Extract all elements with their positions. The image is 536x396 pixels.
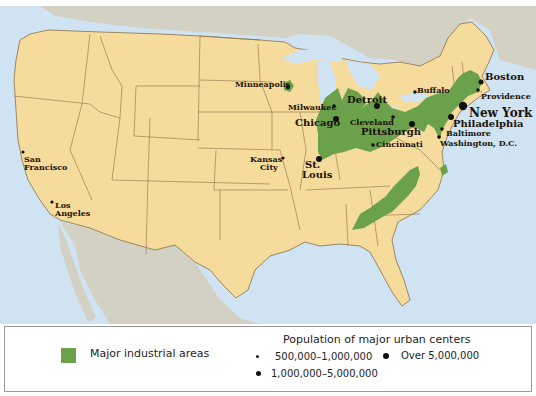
small-city-dot-icon [256, 355, 259, 358]
population-legend-title: Population of major urban centers [283, 333, 470, 346]
svg-text:Providence: Providence [481, 91, 531, 101]
legend-size-medium-label: 1,000,000–5,000,000 [271, 368, 378, 379]
svg-text:Detroit: Detroit [347, 94, 387, 105]
industrial-area-swatch [61, 348, 76, 363]
legend-size-large: Over 5,000,000 [383, 350, 479, 361]
us-industrial-map: Minneapolis Milwaukee Chicago Detroit Cl… [0, 6, 536, 324]
svg-text:Boston: Boston [485, 71, 525, 82]
svg-text:Pittsburgh: Pittsburgh [361, 126, 422, 137]
large-city-dot-icon [383, 353, 389, 359]
legend-size-medium: 1,000,000–5,000,000 [256, 368, 378, 379]
city-providence: Providence [476, 88, 531, 101]
city-buffalo: Buffalo [413, 85, 450, 95]
svg-text:Baltimore: Baltimore [446, 128, 491, 138]
svg-text:Milwaukee: Milwaukee [288, 102, 337, 112]
city-minneapolis: Minneapolis [235, 79, 291, 89]
city-chicago: Chicago [295, 116, 341, 128]
industrial-area-label: Major industrial areas [90, 347, 209, 360]
svg-text:Chicago: Chicago [295, 117, 341, 128]
city-washington-dc: Washington, D.C. [437, 135, 517, 148]
map-legend: Major industrial areas Population of maj… [4, 326, 532, 392]
legend-size-small-label: 500,000–1,000,000 [275, 351, 372, 362]
medium-city-dot-icon [256, 371, 261, 376]
city-milwaukee: Milwaukee [288, 102, 337, 112]
city-cincinnati: Cincinnati [371, 139, 422, 149]
svg-text:Buffalo: Buffalo [417, 85, 450, 95]
legend-size-large-label: Over 5,000,000 [401, 350, 479, 361]
svg-text:Cincinnati: Cincinnati [376, 139, 423, 149]
svg-text:Washington, D.C.: Washington, D.C. [439, 138, 517, 148]
svg-text:Minneapolis: Minneapolis [235, 79, 291, 89]
city-baltimore: Baltimore [440, 127, 491, 138]
legend-size-small: 500,000–1,000,000 [256, 351, 372, 362]
